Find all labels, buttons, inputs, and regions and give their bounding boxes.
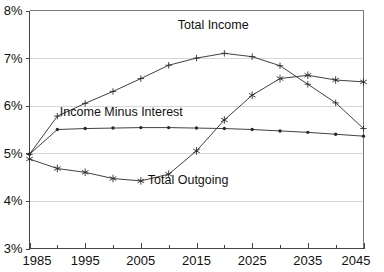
marker-dot — [306, 131, 309, 134]
x-tick-label-2015: 2015 — [182, 253, 211, 268]
line-chart: 8%7%6%5%4%3% 198519952005201520252035204… — [0, 0, 384, 272]
marker-plus — [221, 50, 227, 56]
y-tick-label-4pct: 4% — [4, 193, 23, 208]
x-tick-label-2045: 2045 — [342, 253, 371, 268]
marker-dot — [334, 133, 337, 136]
marker-star — [249, 91, 256, 99]
marker-dot — [139, 126, 142, 129]
y-tick-label-6pct: 6% — [4, 98, 23, 113]
x-tick-label-2005: 2005 — [126, 253, 155, 268]
marker-dot — [111, 126, 114, 129]
marker-plus — [110, 88, 116, 94]
marker-plus — [165, 62, 171, 68]
marker-dot — [83, 127, 86, 130]
marker-plus — [305, 81, 311, 87]
y-tick-label-5pct: 5% — [4, 146, 23, 161]
x-tick-label-2025: 2025 — [238, 253, 267, 268]
y-tick-label-3pct: 3% — [4, 241, 23, 256]
x-tick-label-2035: 2035 — [293, 253, 322, 268]
chart-container: 8%7%6%5%4%3% 198519952005201520252035204… — [0, 0, 384, 272]
x-tick-marks-group — [31, 243, 365, 249]
series-markers-total-income — [26, 50, 366, 157]
marker-dot — [362, 134, 365, 137]
series-line-total-income — [30, 53, 364, 154]
marker-dot — [250, 128, 253, 131]
marker-dot — [195, 126, 198, 129]
marker-dot — [223, 127, 226, 130]
y-tick-labels-group: 8%7%6%5%4%3% — [4, 3, 23, 256]
marker-plus — [277, 63, 283, 69]
series-label-total-outgoing: Total Outgoing — [148, 173, 229, 187]
marker-dot — [278, 129, 281, 132]
x-tick-label-1985: 1985 — [23, 253, 52, 268]
x-tick-label-1995: 1995 — [71, 253, 100, 268]
marker-plus — [193, 55, 199, 61]
x-tick-labels-group: 1985199520052015202520352045 — [23, 253, 371, 268]
marker-dot — [56, 128, 59, 131]
marker-star — [26, 155, 33, 163]
series-label-income-minus-interest: Income Minus Interest — [60, 105, 183, 119]
marker-plus — [138, 75, 144, 81]
y-tick-marks-group — [26, 12, 30, 250]
marker-dot — [167, 126, 170, 129]
series-label-total-income: Total Income — [178, 18, 249, 32]
y-tick-label-8pct: 8% — [4, 3, 23, 18]
y-tick-label-7pct: 7% — [4, 51, 23, 66]
